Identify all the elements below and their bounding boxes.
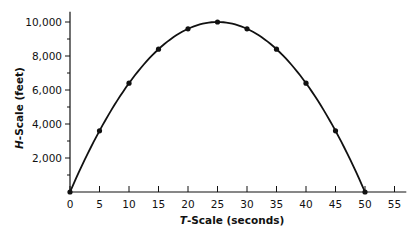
y-tick-label: 10,000 (25, 16, 62, 28)
data-point (215, 19, 220, 24)
data-point (156, 47, 161, 52)
x-tick-label: 10 (122, 198, 135, 210)
x-axis-label: T-Scale (seconds) (180, 214, 284, 226)
y-axis-label: H-Scale (feet) (13, 67, 25, 149)
y-tick-label: 4,000 (32, 118, 62, 130)
data-point (244, 26, 249, 31)
data-point (303, 81, 308, 86)
x-tick-label: 35 (270, 198, 283, 210)
x-tick-label: 50 (358, 198, 371, 210)
x-tick-label: 45 (329, 198, 342, 210)
data-point (185, 26, 190, 31)
x-tick-label: 0 (67, 198, 74, 210)
y-tick-label: 8,000 (32, 50, 62, 62)
data-point (274, 47, 279, 52)
y-tick-label: 2,000 (32, 152, 62, 164)
data-point (67, 189, 72, 194)
x-tick-label: 40 (299, 198, 312, 210)
x-tick-label: 20 (181, 198, 194, 210)
data-point (97, 128, 102, 133)
axes: 05101520253035404550552,0004,0006,0008,0… (25, 12, 406, 210)
data-point (362, 189, 367, 194)
x-tick-label: 55 (388, 198, 401, 210)
parabola-line (70, 22, 365, 192)
x-tick-label: 15 (152, 198, 165, 210)
x-tick-label: 5 (96, 198, 103, 210)
y-tick-label: 6,000 (32, 84, 62, 96)
chart: 05101520253035404550552,0004,0006,0008,0… (0, 0, 418, 240)
data-point (333, 128, 338, 133)
x-tick-label: 25 (211, 198, 224, 210)
x-tick-label: 30 (240, 198, 253, 210)
data-point (126, 81, 131, 86)
data-curve (70, 22, 365, 192)
